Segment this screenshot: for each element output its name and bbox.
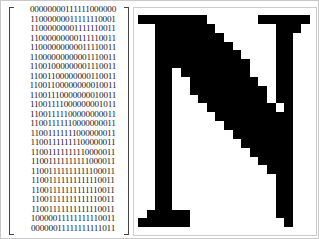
- bitmap-cell: [241, 139, 250, 148]
- bitmap-cell: [215, 139, 224, 148]
- bitmap-cell: [207, 192, 216, 201]
- bitmap-cell: [284, 59, 293, 68]
- bitmap-cell: [198, 210, 207, 219]
- bitmap-cell: [207, 210, 216, 219]
- bitmap-cell: [190, 174, 199, 183]
- bitmap-cell: [190, 218, 199, 227]
- binary-matrix: 0000000011111100000011000000011111110001…: [9, 5, 129, 235]
- bitmap-cell: [250, 174, 259, 183]
- bitmap-cell: [250, 103, 259, 112]
- bitmap-cell: [301, 201, 310, 210]
- bitmap-cell: [172, 24, 181, 33]
- bitmap-cell: [284, 24, 293, 33]
- bitmap-cell: [181, 121, 190, 130]
- bitmap-cell: [207, 183, 216, 192]
- bitmap-cell: [293, 192, 302, 201]
- bitmap-cell: [258, 42, 267, 51]
- bitmap-cell: [215, 121, 224, 130]
- bitmap-cell: [276, 210, 285, 219]
- bitmap-cell: [190, 201, 199, 210]
- bitmap-cell: [233, 201, 242, 210]
- bitmap-cell: [172, 77, 181, 86]
- bitmap-cell: [293, 139, 302, 148]
- bitmap-cell: [250, 68, 259, 77]
- bitmap-cell: [164, 77, 173, 86]
- bitmap-cell: [190, 210, 199, 219]
- bitmap-cell: [301, 42, 310, 51]
- bitmap-cell: [190, 130, 199, 139]
- bitmap-cell: [138, 157, 147, 166]
- bitmap-cell: [198, 130, 207, 139]
- bitmap-cell: [233, 183, 242, 192]
- bitmap-cell: [250, 210, 259, 219]
- bitmap-cell: [207, 68, 216, 77]
- bitmap-cell: [172, 121, 181, 130]
- bitmap-cell: [224, 103, 233, 112]
- bitmap-cell: [190, 77, 199, 86]
- bitmap-cell: [224, 201, 233, 210]
- bitmap-cell: [284, 139, 293, 148]
- bitmap-cell: [293, 157, 302, 166]
- bitmap-cell: [164, 165, 173, 174]
- bitmap-cell: [293, 59, 302, 68]
- bitmap-cell: [172, 201, 181, 210]
- bitmap-cell: [284, 210, 293, 219]
- bitmap-glyph-panel: [133, 7, 317, 236]
- bitmap-cell: [241, 174, 250, 183]
- bitmap-cell: [181, 77, 190, 86]
- bitmap-cell: [267, 201, 276, 210]
- bitmap-cell: [224, 86, 233, 95]
- bitmap-cell: [190, 165, 199, 174]
- bitmap-cell: [258, 95, 267, 104]
- bitmap-cell: [172, 15, 181, 24]
- bitmap-cell: [181, 201, 190, 210]
- bitmap-cell: [258, 218, 267, 227]
- bitmap-cell: [207, 121, 216, 130]
- bitmap-cell: [172, 165, 181, 174]
- bitmap-cell: [224, 165, 233, 174]
- bitmap-cell: [138, 42, 147, 51]
- bitmap-cell: [155, 183, 164, 192]
- bitmap-cell: [198, 77, 207, 86]
- bitmap-cell: [155, 68, 164, 77]
- bitmap-cell: [181, 15, 190, 24]
- bitmap-cell: [258, 192, 267, 201]
- bitmap-cell: [258, 210, 267, 219]
- bitmap-cell: [207, 50, 216, 59]
- bitmap-cell: [276, 201, 285, 210]
- bitmap-cell: [241, 201, 250, 210]
- bitmap-cell: [155, 112, 164, 121]
- bitmap-cell: [215, 33, 224, 42]
- bitmap-cell: [138, 77, 147, 86]
- bitmap-cell: [172, 50, 181, 59]
- bitmap-cell: [147, 165, 156, 174]
- bitmap-cell: [284, 95, 293, 104]
- bitmap-cell: [284, 112, 293, 121]
- bitmap-cell: [241, 95, 250, 104]
- bitmap-cell: [284, 15, 293, 24]
- bitmap-cell: [250, 121, 259, 130]
- bitmap-cell: [258, 86, 267, 95]
- bitmap-cell: [215, 201, 224, 210]
- bitmap-cell: [215, 165, 224, 174]
- bitmap-cell: [233, 68, 242, 77]
- bitmap-cell: [293, 210, 302, 219]
- bitmap-cell: [207, 139, 216, 148]
- bitmap-cell: [241, 183, 250, 192]
- bitmap-cell: [250, 201, 259, 210]
- bitmap-cell: [155, 192, 164, 201]
- bitmap-cell: [172, 157, 181, 166]
- bitmap-cell: [258, 174, 267, 183]
- bitmap-cell: [138, 174, 147, 183]
- bitmap-cell: [293, 42, 302, 51]
- bitmap-cell: [293, 112, 302, 121]
- bitmap-cell: [198, 183, 207, 192]
- bitmap-cell: [284, 86, 293, 95]
- bitmap-cell: [207, 77, 216, 86]
- bitmap-cell: [181, 148, 190, 157]
- bitmap-cell: [224, 59, 233, 68]
- bitmap-cell: [301, 95, 310, 104]
- bitmap-cell: [207, 218, 216, 227]
- bitmap-cell: [147, 33, 156, 42]
- bitmap-cell: [258, 157, 267, 166]
